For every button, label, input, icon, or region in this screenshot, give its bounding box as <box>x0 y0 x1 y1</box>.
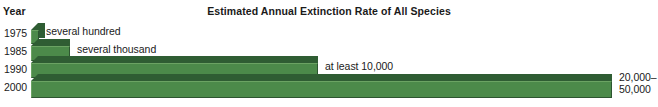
year-label-1990: 1990 <box>0 63 27 75</box>
year-label-1975: 1975 <box>0 27 27 39</box>
extinction-rate-bar-chart: Estimated Annual Extinction Rate of All … <box>0 0 658 107</box>
bar-value-label-1985-line-1: several thousand <box>77 44 156 56</box>
bar-value-label-1990-line-1: at least 10,000 <box>325 61 393 73</box>
year-label-2000: 2000 <box>0 81 27 93</box>
bar-1985-bevel <box>31 39 38 46</box>
bar-1975-bevel <box>31 23 38 30</box>
bar-2000-face <box>31 81 612 98</box>
bar-value-label-1975: several hundred <box>46 26 121 38</box>
bar-value-label-1990: at least 10,000 <box>325 61 393 73</box>
bar-value-label-2000-line-2: 50,000 <box>619 84 657 96</box>
bar-value-label-1975-line-1: several hundred <box>46 26 121 38</box>
year-label-1985: 1985 <box>0 45 27 57</box>
bar-1990-bevel <box>31 56 38 63</box>
year-axis-header: Year <box>3 5 26 17</box>
bar-value-label-2000-line-1: 20,000– <box>619 72 657 84</box>
bar-value-label-1985: several thousand <box>77 44 156 56</box>
bar-2000-bevel <box>31 74 38 81</box>
chart-title: Estimated Annual Extinction Rate of All … <box>0 5 658 17</box>
bar-value-label-2000: 20,000– 50,000 <box>619 72 657 95</box>
bar-1975-extrude <box>38 23 45 38</box>
